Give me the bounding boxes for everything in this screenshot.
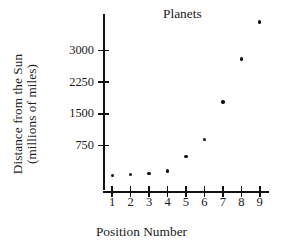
data-point xyxy=(111,174,114,177)
x-tick-label: 1 xyxy=(104,196,120,209)
y-tick-label: 2250 xyxy=(54,76,94,88)
y-axis-line xyxy=(103,14,105,190)
y-axis-tick-labels: 750150022503000 xyxy=(48,0,94,215)
y-tick xyxy=(98,145,109,147)
x-tick-label: 7 xyxy=(215,196,231,209)
y-tick xyxy=(98,81,109,83)
y-tick-label: 3000 xyxy=(54,44,94,56)
data-point xyxy=(184,155,187,158)
x-tick-label: 9 xyxy=(252,196,268,209)
data-point xyxy=(129,173,132,176)
data-point xyxy=(240,57,243,60)
data-point xyxy=(258,20,261,23)
y-tick-label: 1500 xyxy=(54,107,94,119)
y-tick-label: 750 xyxy=(54,139,94,151)
data-point xyxy=(166,169,169,172)
data-point xyxy=(203,138,206,141)
x-axis-label: Position Number xyxy=(0,224,283,240)
data-point xyxy=(147,172,150,175)
x-tick-label: 6 xyxy=(196,196,212,209)
y-tick xyxy=(98,50,109,52)
x-tick-label: 4 xyxy=(160,196,176,209)
x-tick-label: 8 xyxy=(233,196,249,209)
x-tick-label: 3 xyxy=(141,196,157,209)
x-tick-label: 5 xyxy=(178,196,194,209)
y-tick xyxy=(98,113,109,115)
data-point xyxy=(221,100,224,103)
plot-area: 750150022503000 123456789 xyxy=(0,0,283,215)
planets-scatter-chart: Planets Distance from the Sun (millions … xyxy=(0,0,283,251)
x-tick-label: 2 xyxy=(123,196,139,209)
